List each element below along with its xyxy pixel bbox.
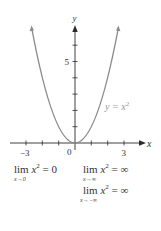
curve-right-arrow-icon	[116, 26, 120, 32]
function-label: y = x2	[104, 100, 130, 112]
lim-word: lim	[83, 163, 98, 175]
lim-subscript: x→−∞	[80, 197, 128, 203]
x-tick-label-neg3: −3	[20, 148, 30, 158]
lim-rhs: = ∞	[112, 184, 129, 196]
limit-x-to-0: lim x2 = 0 x→0	[14, 163, 57, 182]
y-tick-label-5: 5	[65, 57, 70, 67]
limit-x-to-neg-infinity: lim x2 = ∞ x→−∞	[83, 184, 128, 203]
x-tick-label-3: 3	[122, 148, 127, 158]
lim-subscript: x→0	[14, 176, 57, 182]
y-axis-label: y	[72, 13, 77, 23]
lim-exponent: 2	[105, 183, 109, 191]
x-axis-arrow-icon	[139, 140, 146, 145]
y-axis-arrow-icon	[72, 25, 77, 32]
x-axis-label: x	[146, 138, 152, 149]
lim-exponent: 2	[105, 162, 109, 170]
limit-x-to-infinity: lim x2 = ∞ x→∞	[83, 163, 128, 182]
lim-rhs: = 0	[43, 163, 57, 175]
lim-subscript: x→∞	[83, 176, 128, 182]
parabola-figure: x y −3 0 3 5	[0, 0, 161, 231]
lim-word: lim	[83, 184, 98, 196]
x-tick-label-0: 0	[67, 147, 72, 157]
curve-left-arrow-icon	[30, 26, 34, 32]
lim-rhs: = ∞	[112, 163, 129, 175]
lim-word: lim	[14, 163, 29, 175]
lim-exponent: 2	[36, 162, 40, 170]
